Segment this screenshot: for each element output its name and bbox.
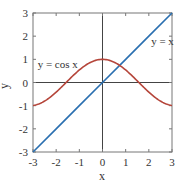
annotation-0: y = cos x (38, 58, 79, 70)
y-axis-label: y (0, 83, 11, 89)
y-tick-label: -1 (19, 100, 28, 112)
annotations: y = cos xy = x (38, 35, 175, 70)
y-tick-label: 0 (23, 77, 29, 89)
chart: -3-2-10123-3-2-10123 x y y = cos xy = x (0, 0, 185, 184)
y-tick-label: -2 (19, 123, 28, 135)
y-tick-label: 2 (23, 30, 29, 42)
x-tick-label: 0 (100, 156, 106, 168)
y-tick-label: 1 (23, 53, 29, 65)
x-tick-label: -3 (28, 156, 38, 168)
x-tick-label: 2 (146, 156, 152, 168)
x-tick-label: -2 (52, 156, 61, 168)
annotation-1: y = x (151, 35, 174, 47)
y-tick-label: -3 (19, 146, 29, 158)
x-tick-label: 3 (169, 156, 175, 168)
x-tick-label: -1 (75, 156, 84, 168)
y-tick-label: 3 (23, 7, 29, 19)
x-axis-label: x (99, 169, 105, 183)
x-tick-label: 1 (123, 156, 129, 168)
